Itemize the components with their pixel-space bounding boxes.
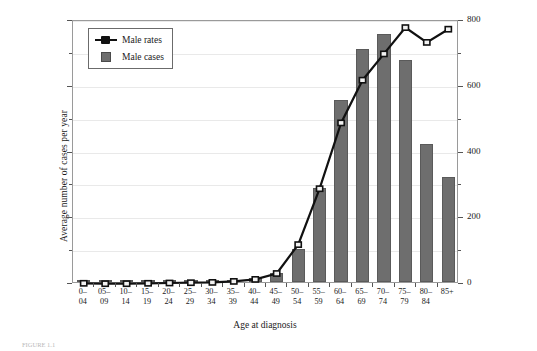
axis-tick — [458, 250, 461, 251]
axis-tick — [458, 86, 463, 87]
line-marker — [402, 25, 408, 30]
y-tick-label: 200 — [467, 212, 527, 221]
y-tick-label: 600 — [467, 81, 527, 90]
x-tick-label: 45– 49 — [265, 287, 286, 306]
x-tick-label: 40– 44 — [244, 287, 265, 306]
line-marker — [231, 279, 237, 284]
x-tick-label: 30– 34 — [201, 287, 222, 306]
axis-tick — [458, 119, 461, 120]
legend-label-male-rates: Male rates — [122, 35, 162, 45]
axis-tick — [458, 184, 461, 185]
line-marker — [124, 281, 130, 286]
axis-tick — [67, 283, 72, 284]
line-marker — [252, 277, 258, 282]
axis-tick — [69, 184, 72, 185]
line-marker — [317, 186, 323, 191]
line-marker — [81, 281, 87, 286]
line-marker — [424, 40, 430, 45]
legend-item-male-rates: Male rates — [95, 33, 164, 47]
line-marker — [274, 271, 280, 276]
y-tick-label: 400 — [467, 147, 527, 156]
x-tick-label: 0– 04 — [72, 287, 93, 306]
x-tick-label: 50– 54 — [286, 287, 307, 306]
x-tick-label: 15– 19 — [136, 287, 157, 306]
x-tick-label: 80– 84 — [415, 287, 436, 306]
line-marker — [166, 280, 172, 285]
y-axis-left-title: Average number of cases per year — [59, 56, 69, 296]
x-tick-label: 60– 64 — [329, 287, 350, 306]
chart-container: Average number of cases per year Rate pe… — [0, 0, 537, 351]
x-tick-label: 25– 29 — [179, 287, 200, 306]
axis-tick — [69, 53, 72, 54]
axis-tick — [458, 283, 463, 284]
line-marker-icon — [95, 36, 117, 44]
x-tick-label: 55– 59 — [308, 287, 329, 306]
chart-legend: Male rates Male cases — [88, 28, 173, 69]
axis-tick — [67, 217, 72, 218]
axis-tick — [458, 217, 463, 218]
x-axis-title: Age at diagnosis — [72, 320, 458, 330]
legend-label-male-cases: Male cases — [122, 52, 164, 62]
line-marker — [359, 78, 365, 83]
figure-caption: FIGURE 1.1 — [22, 341, 55, 348]
x-tick-label: 10– 14 — [115, 287, 136, 306]
x-tick-label: 75– 79 — [394, 287, 415, 306]
axis-tick — [458, 152, 463, 153]
legend-item-male-cases: Male cases — [95, 50, 164, 64]
axis-tick — [67, 20, 72, 21]
y-tick-label: 0 — [467, 278, 527, 287]
axis-tick — [69, 119, 72, 120]
line-marker — [295, 242, 301, 247]
x-tick-label: 05– 09 — [93, 287, 114, 306]
line-marker — [145, 281, 151, 286]
x-tick-label: 70– 74 — [372, 287, 393, 306]
line-marker — [445, 27, 451, 32]
axis-tick — [69, 250, 72, 251]
line-marker — [209, 280, 215, 285]
x-tick-label: 65– 69 — [351, 287, 372, 306]
x-tick-label: 35– 39 — [222, 287, 243, 306]
x-tick-label: 85+ — [437, 287, 458, 297]
line-marker — [102, 281, 108, 286]
x-tick-label: 20– 24 — [158, 287, 179, 306]
axis-tick — [67, 152, 72, 153]
axis-tick — [67, 86, 72, 87]
line-marker — [381, 51, 387, 56]
line-marker — [188, 280, 194, 285]
y-tick-label: 800 — [467, 15, 527, 24]
line-marker — [338, 120, 344, 125]
bar-swatch-icon — [95, 52, 117, 62]
axis-tick — [458, 53, 461, 54]
axis-tick — [458, 20, 463, 21]
